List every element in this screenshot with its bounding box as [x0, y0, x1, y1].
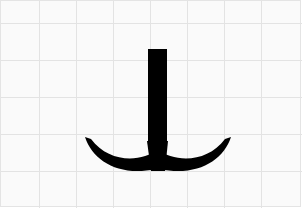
glyph-character [1, 1, 301, 207]
grid-paper-canvas [0, 0, 301, 207]
